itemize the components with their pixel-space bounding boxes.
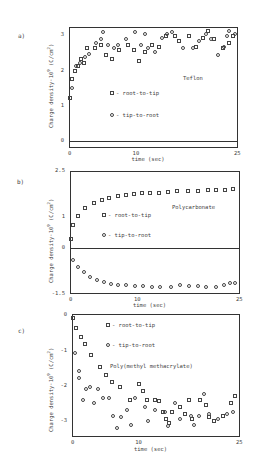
square-marker [186, 189, 190, 193]
square-marker [128, 398, 132, 402]
y-axis-label-unit-close: ) [48, 199, 54, 202]
square-marker [68, 96, 72, 100]
square-marker [233, 394, 237, 398]
y-axis-label-exp: 9 [46, 224, 51, 226]
square-marker [79, 335, 83, 339]
circle-marker [189, 414, 193, 418]
y-axis-label: Charge density·109 (C/cm2) [46, 199, 54, 283]
circle-marker [101, 396, 105, 400]
y-axis-label-exp: 9 [46, 69, 51, 71]
circle-marker [207, 412, 211, 416]
circle-marker [70, 86, 74, 90]
y-tick-label: 3 [44, 31, 64, 37]
square-marker [83, 206, 87, 210]
square-marker [117, 48, 121, 52]
circle-marker [83, 55, 87, 59]
square-marker [71, 223, 75, 227]
circle-marker [111, 414, 115, 418]
circle-marker [181, 46, 185, 50]
legend-label: - tip-to-root [108, 232, 151, 238]
circle-marker [94, 41, 98, 45]
square-marker [140, 191, 144, 195]
y-axis-label-spacer [48, 370, 54, 373]
square-marker [196, 189, 200, 193]
square-marker [229, 401, 233, 405]
square-marker [157, 191, 161, 195]
legend-label: - root-to-tip [108, 212, 151, 218]
square-marker [187, 398, 191, 402]
y-axis-label-text: Charge density·10 [48, 376, 54, 432]
square-marker [231, 187, 235, 191]
circle-marker [139, 43, 143, 47]
circle-marker-icon [110, 113, 114, 117]
circle-marker [163, 410, 167, 414]
x-tick-label: 0 [69, 296, 72, 302]
y-axis-label-unit-exp: 2 [46, 351, 51, 353]
square-marker [118, 385, 122, 389]
square-marker [107, 196, 111, 200]
square-marker [110, 57, 114, 61]
y-axis-label-unit: (C/cm [48, 353, 54, 370]
square-marker [104, 373, 108, 377]
square-marker [74, 326, 78, 330]
circle-marker [153, 50, 157, 54]
square-marker [132, 48, 136, 52]
circle-marker [81, 398, 85, 402]
legend-tip-to-root: - tip-to-root [110, 112, 159, 118]
legend-label: - root-to-tip [116, 90, 159, 96]
square-marker [166, 190, 170, 194]
square-marker [175, 189, 179, 193]
square-marker [132, 192, 136, 196]
square-marker-icon [106, 323, 110, 327]
square-marker [177, 39, 181, 43]
y-axis-label: Charge density·109 (C/cm2) [46, 348, 54, 432]
legend-label: - tip-to-root [116, 112, 159, 118]
square-marker [145, 398, 149, 402]
y-axis-label-spacer [48, 221, 54, 224]
circle-marker [150, 285, 154, 289]
circle-marker [77, 369, 81, 373]
panel-label: c) [18, 327, 25, 334]
square-marker [137, 59, 141, 63]
square-marker [85, 46, 89, 50]
y-tick-label: -1.5 [45, 290, 65, 296]
square-marker [137, 382, 141, 386]
square-marker [100, 198, 104, 202]
circle-marker-icon [106, 343, 110, 347]
y-axis-label-exp: 9 [46, 373, 51, 375]
square-marker [173, 34, 177, 38]
circle-marker [133, 396, 137, 400]
y-tick-label: 0 [47, 311, 67, 317]
legend-root-to-tip: - root-to-tip [110, 90, 159, 96]
y-axis-label-unit-exp: 2 [46, 47, 51, 49]
x-axis-label: time (sec) [133, 302, 166, 308]
square-marker [76, 214, 80, 218]
square-marker [73, 69, 77, 73]
circle-marker [202, 392, 206, 396]
circle-marker [197, 414, 201, 418]
y-axis-label-unit-close: ) [48, 348, 54, 351]
circle-marker [129, 423, 133, 427]
circle-marker [116, 283, 120, 287]
square-marker [201, 36, 205, 40]
square-marker [157, 399, 161, 403]
material-label: Poly(methyl methacrylate) [110, 363, 193, 369]
y-axis-label-unit: (C/cm [48, 49, 54, 66]
circle-marker [143, 32, 147, 36]
circle-marker [225, 412, 229, 416]
panel-label: a) [18, 32, 25, 39]
x-tick-label: 25 [236, 296, 243, 302]
y-axis-label-unit: (C/cm [48, 204, 54, 221]
square-marker [110, 380, 114, 384]
x-axis-label: time (sec) [134, 446, 167, 452]
square-marker [124, 193, 128, 197]
square-marker [221, 414, 225, 418]
circle-marker [133, 284, 137, 288]
square-marker [104, 53, 108, 57]
square-marker [98, 365, 102, 369]
square-marker [116, 194, 120, 198]
square-marker [141, 389, 145, 393]
square-marker [89, 353, 93, 357]
square-marker [143, 50, 147, 54]
circle-marker [160, 36, 164, 40]
